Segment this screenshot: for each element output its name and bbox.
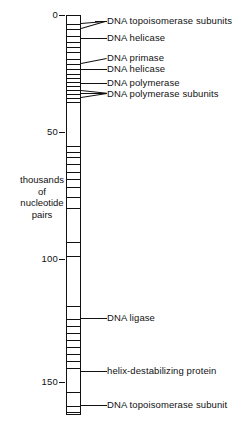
- genome-band: [67, 24, 80, 25]
- genome-band: [67, 354, 80, 355]
- genome-band: [67, 78, 80, 79]
- leader-line-ligase: [81, 318, 107, 319]
- scale-label-50: 50: [34, 127, 58, 137]
- genome-band: [67, 361, 80, 362]
- gene-label-dna-helicase-1: DNA helicase: [107, 33, 165, 43]
- genome-band: [67, 406, 80, 407]
- genome-band: [67, 59, 80, 60]
- genome-band: [67, 172, 80, 173]
- genome-band: [67, 333, 80, 334]
- gene-label-dna-topoisomerase-subunits: DNA topoisomerase subunits: [107, 16, 232, 26]
- leader-line-primase: [81, 58, 107, 64]
- genome-band: [67, 90, 80, 91]
- genome-band: [67, 47, 80, 48]
- genome-band: [67, 164, 80, 165]
- leader-line-topoisomerase-subunits-c: [95, 21, 107, 22]
- genome-band: [67, 326, 80, 327]
- leader-line-helix-destabilizing-protein: [81, 371, 107, 372]
- genome-band: [67, 368, 80, 369]
- genome-band: [67, 157, 80, 158]
- genome-band: [67, 82, 80, 83]
- gene-label-dna-ligase: DNA ligase: [107, 313, 155, 323]
- genome-band: [67, 86, 80, 87]
- genome-band: [67, 74, 80, 75]
- genome-band: [67, 36, 80, 37]
- scale-label-150: 150: [30, 377, 58, 387]
- gene-label-dna-helicase-2: DNA helicase: [107, 64, 165, 74]
- genome-band: [67, 146, 80, 147]
- leader-line-helicase-2: [81, 69, 107, 70]
- gene-label-helix-destabilizing-protein: helix-destabilizing protein: [107, 366, 216, 376]
- genome-band: [67, 102, 80, 103]
- scale-tick-100: [59, 259, 65, 260]
- genome-band: [67, 256, 80, 257]
- scale-label-0: 0: [38, 10, 58, 20]
- gene-label-dna-topoisomerase-subunit: DNA topoisomerase subunit: [107, 400, 227, 410]
- genome-band: [67, 208, 80, 209]
- leader-line-polymerase: [81, 83, 107, 84]
- genome-band: [67, 306, 80, 307]
- genome-band: [67, 319, 80, 320]
- genome-band: [67, 98, 80, 99]
- genome-band: [67, 340, 80, 341]
- genome-band: [67, 29, 80, 30]
- genome-band: [67, 52, 80, 53]
- genome-band: [67, 187, 80, 188]
- genome-band: [67, 179, 80, 180]
- gene-label-dna-primase: DNA primase: [107, 53, 164, 63]
- genome-band: [67, 242, 80, 243]
- genome-band: [67, 42, 80, 43]
- leader-line-helicase-1: [81, 38, 107, 39]
- genome-band: [67, 69, 80, 70]
- genome-band: [67, 64, 80, 65]
- gene-label-dna-polymerase-subunits: DNA polymerase subunits: [107, 89, 219, 99]
- genome-band: [67, 94, 80, 95]
- scale-tick-50: [59, 132, 65, 133]
- genome-band: [67, 152, 80, 153]
- genome-band: [67, 197, 80, 198]
- genome-band: [67, 412, 80, 413]
- scale-tick-0: [59, 15, 65, 16]
- gene-label-dna-polymerase: DNA polymerase: [107, 78, 180, 88]
- genome-band: [67, 347, 80, 348]
- scale-tick-150: [59, 382, 65, 383]
- genome-band: [67, 392, 80, 393]
- genome-map-figure: 0 50 100 150 thousands of nucleotide pai…: [0, 0, 233, 423]
- genome-bar: [66, 15, 81, 415]
- leader-line-topoisomerase-subunit: [81, 405, 107, 406]
- scale-label-100: 100: [30, 254, 58, 264]
